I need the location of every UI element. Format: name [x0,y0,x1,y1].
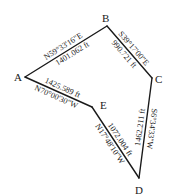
vertex-label-a: A [14,71,22,83]
vertex-label-d: D [135,184,143,196]
vertex-label-c: C [155,73,162,85]
vertex-label-b: B [102,12,109,24]
vertex-label-e: E [100,99,107,111]
edge-d-e [92,107,139,178]
edge-b-c [107,26,152,78]
traverse-diagram: A B C D E N59°33'16"E 1401.062 ft S39°17… [0,0,173,196]
